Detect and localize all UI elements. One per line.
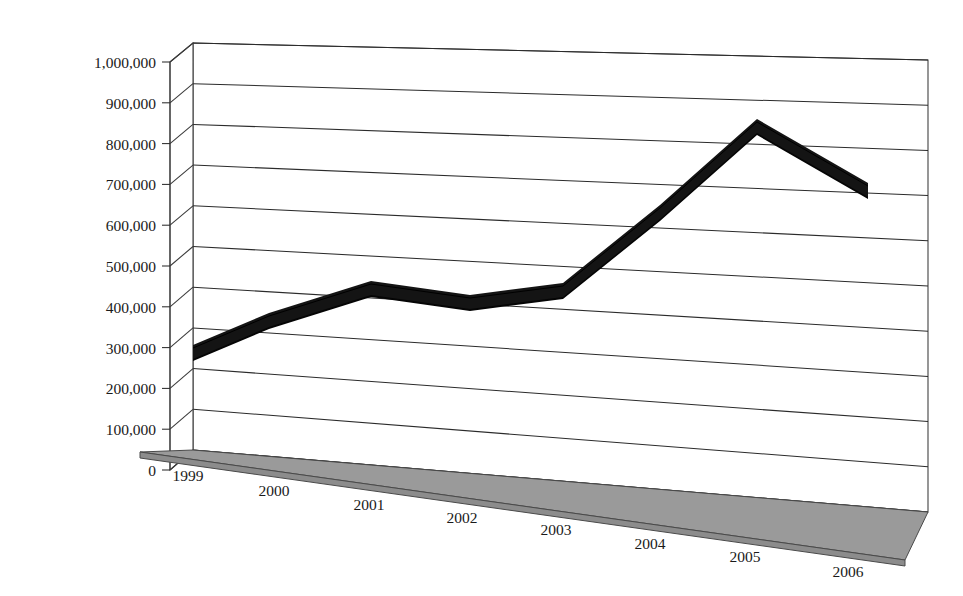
- ytick-label-300000: 300,000: [106, 340, 157, 357]
- ytick-label-900000: 900,000: [106, 95, 157, 112]
- plot-back-wall: [193, 43, 928, 512]
- xtick-label-2000: 2000: [259, 482, 290, 499]
- ytick-label-0: 0: [148, 462, 156, 479]
- ytick-label-200000: 200,000: [106, 380, 157, 397]
- left-depth-wall: [170, 43, 193, 470]
- ytick-label-100000: 100,000: [106, 421, 157, 438]
- xtick-label-1999: 1999: [173, 467, 204, 484]
- xtick-label-2001: 2001: [354, 496, 385, 513]
- line-chart-3d: 1,000,000 900,000 800,000 700,000 600,00…: [0, 0, 963, 596]
- ytick-label-600000: 600,000: [106, 217, 157, 234]
- xtick-label-2005: 2005: [730, 548, 761, 565]
- y-axis-labels: 1,000,000 900,000 800,000 700,000 600,00…: [94, 54, 156, 479]
- back-wall-panel: [193, 43, 928, 512]
- chart-canvas: 1,000,000 900,000 800,000 700,000 600,00…: [0, 0, 963, 596]
- xtick-label-2002: 2002: [447, 509, 478, 526]
- y-axis-ticks: [162, 62, 170, 470]
- ytick-label-700000: 700,000: [106, 176, 157, 193]
- xtick-label-2006: 2006: [833, 563, 864, 580]
- ytick-label-1000000: 1,000,000: [94, 54, 156, 71]
- ytick-label-800000: 800,000: [106, 136, 157, 153]
- xtick-label-2004: 2004: [635, 535, 666, 552]
- xtick-label-2003: 2003: [541, 521, 572, 538]
- ytick-label-500000: 500,000: [106, 258, 157, 275]
- ytick-label-400000: 400,000: [106, 299, 157, 316]
